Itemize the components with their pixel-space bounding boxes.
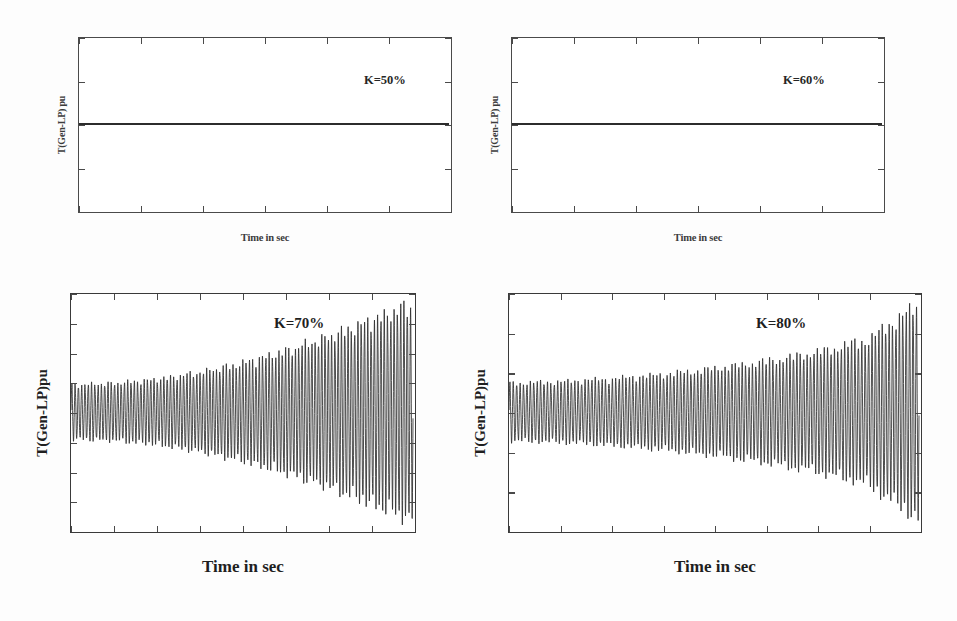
y-tick-k70-4 bbox=[409, 413, 415, 414]
x-tick-k70-6 bbox=[329, 526, 330, 532]
y-tick-k80-4 bbox=[915, 453, 921, 454]
x-tick-k50-0 bbox=[79, 38, 80, 44]
waveform-trace-k70 bbox=[71, 294, 415, 532]
y-axis-title-k80: T(Gen-LP)pu bbox=[473, 369, 490, 457]
x-tick-k70-6 bbox=[329, 294, 330, 300]
x-tick-k60-1 bbox=[574, 38, 575, 44]
x-tick-k60-6 bbox=[884, 206, 885, 212]
x-tick-k70-1 bbox=[114, 294, 115, 300]
y-tick-k80-2 bbox=[915, 373, 921, 374]
y-axis-title-k60: T(Gen-LP) pu bbox=[489, 96, 500, 154]
figure-root: 420-2-40123456 T(Gen-LP) pu Time in sec … bbox=[0, 0, 957, 621]
y-tick-k80-1 bbox=[509, 334, 515, 335]
y-tick-k70-3 bbox=[409, 383, 415, 384]
x-tick-k50-4 bbox=[327, 206, 328, 212]
x-tick-k80-6 bbox=[818, 294, 819, 300]
x-axis-title-k80: Time in sec bbox=[674, 557, 756, 577]
x-tick-k60-4 bbox=[760, 206, 761, 212]
x-tick-k70-3 bbox=[200, 294, 201, 300]
chart-panel-k70: 20151050-5-10-15-200510152025303540 T(Ge… bbox=[70, 293, 416, 533]
x-tick-k70-4 bbox=[243, 526, 244, 532]
y-tick-k70-2 bbox=[71, 354, 77, 355]
x-tick-k70-0 bbox=[71, 294, 72, 300]
x-tick-k70-8 bbox=[415, 526, 416, 532]
x-tick-k80-6 bbox=[818, 526, 819, 532]
plot-area-k80: 3020100-10-20-300510152025303540 bbox=[508, 293, 922, 533]
y-tick-k80-3 bbox=[509, 413, 515, 414]
y-tick-k80-2 bbox=[509, 373, 515, 374]
x-tick-k80-1 bbox=[561, 526, 562, 532]
plot-area-k60: 420-2-40123456 bbox=[511, 37, 885, 213]
y-axis-title-k70: T(Gen-LP)pu bbox=[35, 369, 52, 457]
x-axis-title-k50: Time in sec bbox=[241, 232, 289, 243]
waveform-trace-k80 bbox=[509, 294, 921, 532]
y-tick-k60-2 bbox=[878, 125, 884, 126]
x-tick-k50-3 bbox=[265, 38, 266, 44]
y-tick-k70-8 bbox=[71, 532, 77, 533]
y-tick-k70-3 bbox=[71, 383, 77, 384]
chart-panel-k50: 420-2-40123456 T(Gen-LP) pu Time in sec … bbox=[78, 37, 452, 213]
y-tick-k80-1 bbox=[915, 334, 921, 335]
y-tick-k50-2 bbox=[79, 125, 85, 126]
x-tick-k70-2 bbox=[157, 294, 158, 300]
y-tick-k80-5 bbox=[509, 492, 515, 493]
x-tick-k70-5 bbox=[286, 294, 287, 300]
x-tick-k80-0 bbox=[509, 294, 510, 300]
x-tick-k80-8 bbox=[921, 294, 922, 300]
y-tick-k50-1 bbox=[445, 82, 451, 83]
x-tick-k60-0 bbox=[512, 38, 513, 44]
x-tick-k80-7 bbox=[870, 526, 871, 532]
y-tick-k60-4 bbox=[512, 212, 518, 213]
x-tick-k70-2 bbox=[157, 526, 158, 532]
y-tick-k80-5 bbox=[915, 492, 921, 493]
y-tick-k70-1 bbox=[71, 324, 77, 325]
y-tick-k70-6 bbox=[409, 473, 415, 474]
x-tick-k70-7 bbox=[372, 294, 373, 300]
x-tick-k60-4 bbox=[760, 38, 761, 44]
y-tick-k60-3 bbox=[512, 169, 518, 170]
y-tick-k80-6 bbox=[915, 532, 921, 533]
chart-panel-k60: 420-2-40123456 T(Gen-LP) pu Time in sec … bbox=[511, 37, 885, 213]
x-tick-k70-5 bbox=[286, 526, 287, 532]
x-tick-k60-5 bbox=[822, 206, 823, 212]
y-tick-k70-7 bbox=[409, 502, 415, 503]
x-tick-k80-3 bbox=[664, 294, 665, 300]
y-tick-k60-4 bbox=[878, 212, 884, 213]
waveform-trace-k50 bbox=[79, 38, 451, 212]
x-tick-k80-2 bbox=[612, 526, 613, 532]
x-tick-k50-3 bbox=[265, 206, 266, 212]
y-tick-k50-1 bbox=[79, 82, 85, 83]
x-tick-k50-5 bbox=[389, 38, 390, 44]
x-tick-k60-3 bbox=[698, 206, 699, 212]
y-tick-k80-6 bbox=[509, 532, 515, 533]
x-tick-k70-1 bbox=[114, 526, 115, 532]
x-tick-k80-5 bbox=[767, 526, 768, 532]
x-tick-k50-2 bbox=[203, 206, 204, 212]
x-tick-k80-3 bbox=[664, 526, 665, 532]
x-tick-k80-7 bbox=[870, 294, 871, 300]
x-tick-k80-2 bbox=[612, 294, 613, 300]
y-tick-k50-4 bbox=[445, 212, 451, 213]
y-tick-k60-2 bbox=[512, 125, 518, 126]
y-tick-k60-1 bbox=[878, 82, 884, 83]
x-tick-k60-1 bbox=[574, 206, 575, 212]
y-tick-k50-3 bbox=[445, 169, 451, 170]
chart-panel-k80: 3020100-10-20-300510152025303540 T(Gen-L… bbox=[508, 293, 922, 533]
x-tick-k60-2 bbox=[636, 206, 637, 212]
y-tick-k70-5 bbox=[409, 443, 415, 444]
x-tick-k70-4 bbox=[243, 294, 244, 300]
x-tick-k60-6 bbox=[884, 38, 885, 44]
plot-area-k70: 20151050-5-10-15-200510152025303540 bbox=[70, 293, 416, 533]
y-tick-k50-3 bbox=[79, 169, 85, 170]
y-tick-k50-4 bbox=[79, 212, 85, 213]
x-axis-title-k70: Time in sec bbox=[202, 557, 284, 577]
x-tick-k60-3 bbox=[698, 38, 699, 44]
x-tick-k60-5 bbox=[822, 38, 823, 44]
x-tick-k50-2 bbox=[203, 38, 204, 44]
x-tick-k70-7 bbox=[372, 526, 373, 532]
y-tick-k70-2 bbox=[409, 354, 415, 355]
y-tick-k70-7 bbox=[71, 502, 77, 503]
annotation-k80: K=80% bbox=[756, 315, 806, 332]
plot-area-k50: 420-2-40123456 bbox=[78, 37, 452, 213]
annotation-k60: K=60% bbox=[783, 73, 825, 88]
